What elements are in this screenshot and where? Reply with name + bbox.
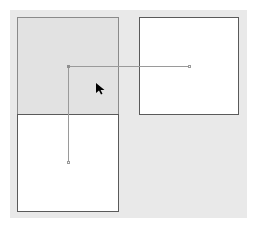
connector-vertical[interactable] — [68, 66, 69, 162]
connector-end-handle-bottom[interactable] — [67, 161, 70, 164]
connector-horizontal[interactable] — [68, 66, 189, 67]
arrow-pointer-icon — [96, 83, 106, 95]
connector-end-handle-right[interactable] — [188, 65, 191, 68]
connector-origin-handle[interactable] — [67, 65, 70, 68]
